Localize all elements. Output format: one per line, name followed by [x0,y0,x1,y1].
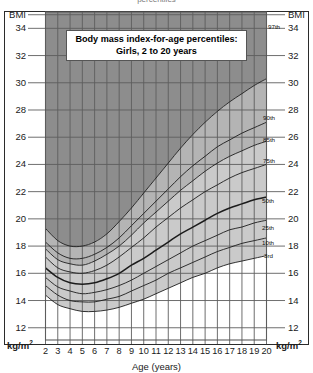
y-axis-title-right: BMI [288,9,312,20]
y-tick-label-right: 20 [288,213,310,224]
y-tick-label-right: 18 [288,240,310,251]
y-tick-label-left: 34 [6,22,26,33]
y-tick-label-left: 16 [6,267,26,278]
percentile-label-75th: 75th [263,157,275,164]
y-tick-label-left: 14 [6,295,26,306]
chart-subtitle: Girls, 2 to 20 years [116,46,197,57]
x-tick-label: 20 [258,346,276,356]
y-tick-label-right: 22 [288,186,310,197]
y-tick-label-left: 28 [6,104,26,115]
y-tick-label-right: 12 [288,322,310,333]
y-tick-label-right: 26 [288,131,310,142]
y-tick-label-left: 30 [6,77,26,88]
y-axis-title-left: BMI [4,9,26,20]
unit-exponent: 2 [298,339,302,346]
x-axis-title: Age (years) [0,361,313,372]
percentile-label-3rd: 3rd [264,252,273,259]
unit-base: kg/m [7,340,29,351]
y-tick-label-left: 32 [6,50,26,61]
unit-base: kg/m [276,340,298,351]
y-tick-label-left: 22 [6,186,26,197]
y-tick-label-right: 14 [288,295,310,306]
percentile-label-90th: 90th [263,114,275,121]
y-tick-label-right: 32 [288,50,310,61]
y-tick-label-right: 30 [288,77,310,88]
y-tick-label-left: 26 [6,131,26,142]
percentile-label-25th: 25th [262,224,274,231]
unit-exponent: 2 [29,339,33,346]
y-tick-label-right: 16 [288,267,310,278]
y-tick-label-left: 24 [6,158,26,169]
y-tick-label-right: 34 [288,22,310,33]
percentile-label-97th: 97th [268,23,280,30]
y-tick-label-right: 24 [288,158,310,169]
percentile-label-10th: 10th [262,239,274,246]
bmi-growth-chart: percentiles Body mass index-for-age perc… [0,0,313,373]
chart-title-box: Body mass index-for-age percentiles: Gir… [66,30,247,61]
y-tick-label-right: 28 [288,104,310,115]
chart-title: Body mass index-for-age percentiles: [75,34,237,45]
y-tick-label-left: 18 [6,240,26,251]
percentile-label-50th: 50th [262,197,274,204]
y-unit-right: kg/m2 [276,339,302,351]
percentile-label-85th: 85th [263,136,275,143]
y-unit-left: kg/m2 [7,339,33,351]
y-tick-label-left: 20 [6,213,26,224]
y-tick-label-left: 12 [6,322,26,333]
